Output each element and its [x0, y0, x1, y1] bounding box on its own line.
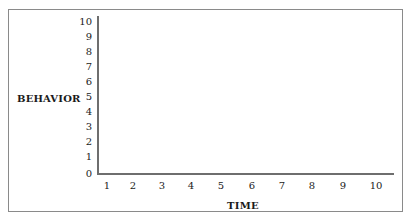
y-tick: 8: [78, 47, 92, 57]
y-tick: 5: [78, 92, 92, 102]
x-tick: 5: [211, 181, 231, 191]
y-axis-label: BEHAVIOR: [17, 93, 81, 104]
x-tick: 9: [333, 181, 353, 191]
y-tick: 1: [78, 152, 92, 162]
x-tick: 6: [242, 181, 262, 191]
x-tick: 4: [181, 181, 201, 191]
x-tick: 8: [302, 181, 322, 191]
y-tick: 6: [78, 77, 92, 87]
y-tick: 10: [78, 17, 92, 27]
y-axis-line: [97, 16, 99, 174]
x-tick: 10: [366, 181, 386, 191]
y-tick: 9: [78, 32, 92, 42]
x-tick: 1: [97, 181, 117, 191]
x-tick: 7: [272, 181, 292, 191]
x-axis-label: TIME: [227, 200, 259, 211]
y-tick: 2: [78, 137, 92, 147]
x-axis-line: [97, 173, 394, 175]
y-tick: 3: [78, 122, 92, 132]
y-tick: 4: [78, 107, 92, 117]
y-tick: 7: [78, 62, 92, 72]
y-tick: 0: [78, 169, 92, 179]
x-tick: 2: [123, 181, 143, 191]
x-tick: 3: [152, 181, 172, 191]
